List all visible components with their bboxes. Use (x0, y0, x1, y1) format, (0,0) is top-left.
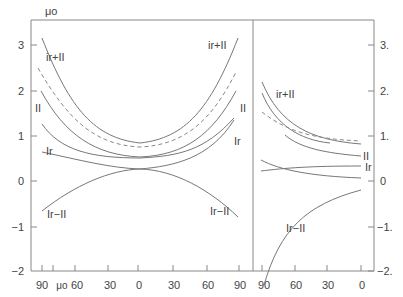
label-ir-plus-ii: ir+II (276, 88, 295, 100)
bottom-tick-label: 30 (104, 279, 116, 291)
curve-ii-right (285, 135, 361, 156)
label-ir: Ir (234, 135, 241, 147)
curve-ir-minus-ii-left (42, 169, 238, 217)
right-tick-label: 0 (380, 175, 386, 187)
right-tick-label: 2. (380, 85, 389, 97)
label-ir-plus-ii: ir+II (208, 39, 227, 51)
left-tick-label: 0 (18, 175, 24, 187)
right-tick-label: 1. (380, 130, 389, 142)
bottom-tick-label: 60 (71, 279, 83, 291)
label-ii: II (35, 102, 41, 114)
bottom-axis-unit-label: μo (56, 280, 68, 291)
left-tick-label: −2 (11, 265, 24, 277)
label-ir: Ir (46, 145, 53, 157)
label-ir-minus-ii: Ir−II (210, 205, 229, 217)
label-ir-minus-ii: Ir−II (47, 208, 66, 220)
curve-ir-right (261, 166, 361, 171)
label-ii: II (240, 102, 246, 114)
left-tick-label: 2 (18, 85, 24, 97)
curve-ir-left (42, 118, 234, 158)
left-y-ticks: 3 2 1 0 −1 −2 (11, 39, 37, 277)
curve-dashed-right (262, 112, 361, 141)
label-ir-plus-ii: ir+II (46, 51, 65, 63)
label-ir-minus-ii: Ir−II (286, 222, 305, 234)
bottom-tick-label: 0 (136, 279, 142, 291)
bottom-tick-label: 60 (202, 279, 214, 291)
curve-ir-plus-ii-left (42, 38, 238, 143)
right-y-ticks: 3. 2. 1. 0 −1. −2. (368, 39, 393, 277)
bottom-x-ticks-right: 90 60 30 0 (258, 265, 365, 291)
bottom-tick-label: 90 (36, 279, 48, 291)
bottom-tick-label: 30 (168, 279, 180, 291)
left-tick-label: 1 (18, 130, 24, 142)
bottom-tick-label: 0 (359, 279, 365, 291)
top-axis-label: μo (45, 5, 57, 17)
bottom-tick-label: 30 (322, 279, 334, 291)
right-tick-label: 3. (380, 39, 389, 51)
left-tick-label: 3 (18, 39, 24, 51)
label-ir: Ir (365, 161, 372, 173)
curve-ir-crossing-left (42, 120, 234, 169)
bottom-tick-label: 60 (290, 279, 302, 291)
right-tick-label: −1. (377, 221, 393, 233)
curve-dashed-left (38, 68, 236, 147)
right-tick-label: −2. (377, 265, 393, 277)
chart: μo 3 2 1 0 −1 −2 3. 2. 1. 0 −1. −2. (0, 0, 403, 297)
left-tick-label: −1 (11, 221, 24, 233)
bottom-x-ticks-left: 90 μo 60 30 0 30 60 90 (36, 265, 246, 291)
bottom-tick-label: 90 (234, 279, 246, 291)
